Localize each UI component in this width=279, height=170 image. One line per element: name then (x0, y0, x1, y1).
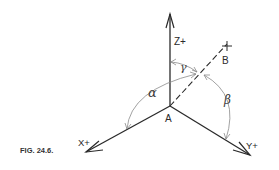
alpha-arc (125, 72, 196, 129)
beta-label: β (223, 93, 231, 107)
x-axis (86, 106, 170, 152)
gamma-label: γ (180, 61, 187, 74)
point-b-marker-icon (222, 41, 232, 51)
y-axis (170, 106, 250, 155)
alpha-label: α (148, 85, 157, 100)
origin-a-label: A (165, 113, 172, 124)
y-axis-label: Y+ (246, 140, 258, 151)
direction-angles-diagram: Z+ X+ Y+ B A γ α β FIG. 24.6. (0, 0, 279, 170)
z-axis-label: Z+ (174, 36, 186, 47)
point-b-label: B (222, 55, 229, 66)
x-axis-label: X+ (78, 137, 90, 148)
figure-caption: FIG. 24.6. (20, 146, 53, 155)
z-axis (166, 14, 174, 106)
line-ab (170, 44, 227, 106)
